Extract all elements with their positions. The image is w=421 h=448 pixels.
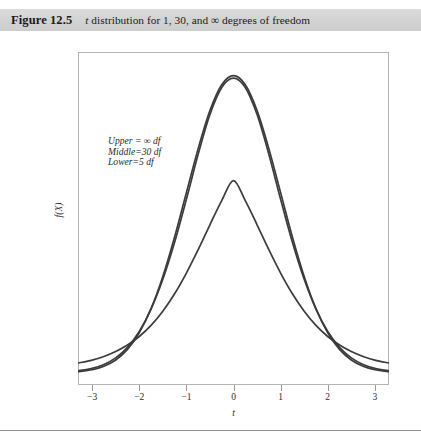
footer-divider [0,430,421,431]
x-axis-tick-label: 0 [231,392,236,402]
figure-caption-text: distribution for 1, 30, and ∞ degrees of… [88,14,310,26]
figure-number: Figure 12.5 [11,13,72,28]
x-axis-tick-label: −1 [181,392,191,402]
x-axis-tick-label: 2 [325,392,330,402]
t-distribution-chart [78,52,389,385]
annotation-line-upper: Upper = ∞ df [108,136,161,147]
x-axis-tick-label: 3 [373,392,378,402]
x-axis-tick-mark [186,385,187,391]
x-axis-title: t [0,408,421,418]
x-axis-tick-mark [234,385,235,391]
x-axis-tick-label: 1 [278,392,283,402]
figure-caption: t distribution for 1, 30, and ∞ degrees … [85,14,310,26]
curve-legend-annotation: Upper = ∞ df Middle=30 df Lower=5 df [108,136,161,168]
x-axis-tick-label: −3 [87,392,97,402]
curve-30-df [78,78,389,371]
x-axis-tick-label: −2 [134,392,144,402]
curve-infinity-df [78,76,389,372]
x-axis-title-text: t [232,408,235,418]
y-axis-title: f(X) [54,203,64,218]
x-axis-tick-mark [375,385,376,391]
x-axis: −3−2−10123 [78,385,389,393]
x-axis-tick-mark [139,385,140,391]
x-axis-tick-mark [92,385,93,391]
curve-5-df [78,181,389,363]
figure-header: Figure 12.5 t distribution for 1, 30, an… [11,11,310,29]
annotation-line-lower: Lower=5 df [108,157,161,168]
x-axis-tick-mark [281,385,282,391]
x-axis-tick-mark [328,385,329,391]
